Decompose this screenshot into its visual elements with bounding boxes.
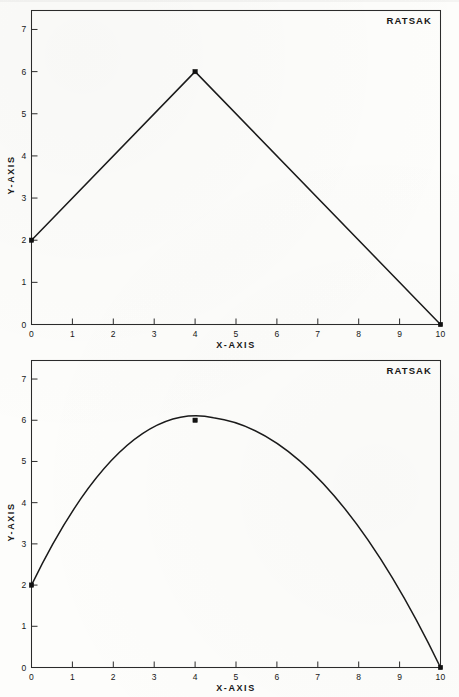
y-axis-ticks: 01234567 [22, 24, 38, 329]
chart-canvas-spline: 01234567 012345678910 X-AXIS Y-AXIS RATS… [0, 350, 459, 697]
corner-annotation-label: RATSAK [387, 365, 432, 376]
data-point-marker [193, 418, 197, 422]
data-point-marker [193, 69, 197, 73]
y-tick-label: 4 [22, 498, 27, 508]
data-point-markers [29, 418, 442, 670]
y-tick-label: 0 [22, 320, 27, 330]
y-tick-label: 4 [22, 151, 27, 161]
x-tick-label: 3 [152, 672, 157, 682]
y-tick-label: 0 [22, 663, 27, 673]
x-tick-label: 3 [152, 329, 157, 339]
chart-figure-linear: 01234567 012345678910 X-AXIS Y-AXIS RATS… [0, 0, 459, 352]
x-axis-ticks: 012345678910 [29, 662, 445, 682]
x-tick-label: 6 [274, 329, 279, 339]
y-axis-title: Y-AXIS [6, 155, 16, 194]
x-tick-label: 4 [193, 329, 198, 339]
x-tick-label: 9 [397, 329, 402, 339]
data-point-markers [29, 69, 442, 326]
x-tick-label: 1 [70, 329, 75, 339]
x-tick-label: 0 [29, 672, 34, 682]
data-point-marker [29, 583, 33, 587]
x-tick-label: 6 [274, 672, 279, 682]
x-tick-label: 8 [356, 329, 361, 339]
x-tick-label: 2 [111, 329, 116, 339]
x-tick-label: 5 [234, 672, 239, 682]
chart-canvas-linear: 01234567 012345678910 X-AXIS Y-AXIS RATS… [0, 0, 459, 352]
y-tick-label: 7 [22, 24, 27, 34]
data-point-marker [438, 665, 442, 669]
y-tick-label: 3 [22, 193, 27, 203]
corner-annotation-label: RATSAK [387, 15, 432, 26]
chart-figure-spline: 01234567 012345678910 X-AXIS Y-AXIS RATS… [0, 350, 459, 697]
x-axis-title: X-AXIS [216, 683, 256, 693]
y-tick-label: 3 [22, 539, 27, 549]
y-tick-label: 1 [22, 621, 27, 631]
x-tick-label: 5 [234, 329, 239, 339]
x-tick-label: 7 [315, 329, 320, 339]
x-tick-label: 0 [29, 329, 34, 339]
y-tick-label: 2 [22, 580, 27, 590]
x-tick-label: 4 [193, 672, 198, 682]
y-tick-label: 1 [22, 277, 27, 287]
data-point-marker [438, 322, 442, 326]
y-tick-label: 5 [22, 109, 27, 119]
x-tick-label: 7 [315, 672, 320, 682]
x-tick-label: 10 [436, 329, 446, 339]
x-axis-ticks: 012345678910 [29, 319, 445, 339]
y-axis-title: Y-AXIS [6, 502, 16, 541]
y-tick-label: 5 [22, 456, 27, 466]
data-point-marker [29, 238, 33, 242]
plot-frame [32, 11, 441, 325]
x-tick-label: 9 [397, 672, 402, 682]
y-tick-label: 7 [22, 374, 27, 384]
x-tick-label: 1 [70, 672, 75, 682]
x-tick-label: 10 [436, 672, 446, 682]
data-series-line [32, 72, 441, 325]
x-tick-label: 2 [111, 672, 116, 682]
plot-frame [32, 361, 441, 668]
y-tick-label: 6 [22, 415, 27, 425]
x-axis-title: X-AXIS [216, 340, 256, 350]
y-axis-ticks: 01234567 [22, 374, 38, 672]
data-series-line [32, 416, 441, 668]
y-tick-label: 2 [22, 235, 27, 245]
y-tick-label: 6 [22, 67, 27, 77]
x-tick-label: 8 [356, 672, 361, 682]
